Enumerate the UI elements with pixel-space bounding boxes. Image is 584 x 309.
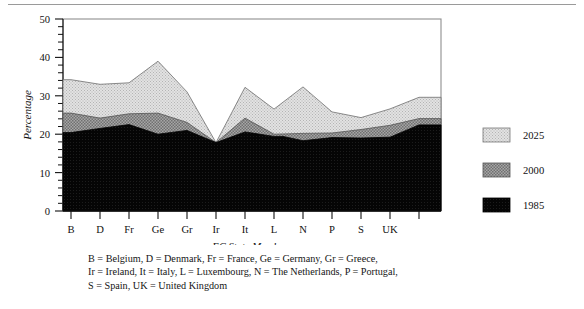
legend-label-2025: 2025 [523,130,544,141]
y-axis-minor-ticks [58,27,63,204]
y-tick-label-30: 30 [39,91,50,102]
legend-item-2000[interactable]: 2000 [483,163,544,177]
x-tick-label-fr: Fr [124,224,134,235]
x-tick-label-d: D [96,224,104,235]
legend-label-2000: 2000 [523,165,544,176]
x-tick-label-gr: Gr [181,224,193,235]
legend-swatch-2025 [483,128,510,142]
x-axis-title: EC State Members [211,241,291,245]
x-tick-label-s: S [358,224,364,235]
x-tick-label-uk: UK [382,224,398,235]
y-tick-label-0: 0 [45,206,50,217]
y-axis: 50 40 30 20 10 0 Percentage [21,14,63,217]
figure-container: 50 40 30 20 10 0 Percentage [0,0,584,309]
y-axis-major-ticks [55,19,63,211]
legend-swatch-2000 [483,163,510,177]
abbreviation-caption: B = Belgium, D = Denmark, Fr = France, G… [88,252,508,292]
plot-area-wrapper: 50 40 30 20 10 0 Percentage [0,0,584,240]
x-tick-label-p: P [329,224,335,235]
legend-item-2025[interactable]: 2025 [483,128,544,142]
legend-swatch-1985 [483,198,510,212]
x-tick-label-b: B [67,224,74,235]
legend-item-1985[interactable]: 1985 [483,198,544,212]
x-axis-ticks [71,211,419,219]
caption-line-1: B = Belgium, D = Denmark, Fr = France, G… [88,252,508,265]
x-tick-label-n: N [299,224,307,235]
y-tick-label-50: 50 [39,14,50,25]
y-tick-label-10: 10 [39,168,50,179]
legend-label-1985: 1985 [523,200,544,211]
x-tick-label-it: It [242,224,249,235]
y-axis-title: Percentage [21,90,33,141]
x-tick-label-ge: Ge [152,224,165,235]
y-tick-label-40: 40 [39,52,50,63]
caption-line-3: S = Spain, UK = United Kingdom [88,279,508,292]
x-tick-label-l: L [271,224,277,235]
caption-line-2: Ir = Ireland, It = Italy, L = Luxembourg… [88,265,508,278]
x-tick-label-ir: Ir [212,224,220,235]
x-axis: B D Fr Ge Gr Ir It L N P S UK [63,211,441,235]
series-area-1985 [63,125,441,211]
area-chart-svg: 50 40 30 20 10 0 Percentage [0,0,584,245]
y-tick-label-20: 20 [39,129,50,140]
chart-legend: 2025 2000 1985 [483,128,544,212]
